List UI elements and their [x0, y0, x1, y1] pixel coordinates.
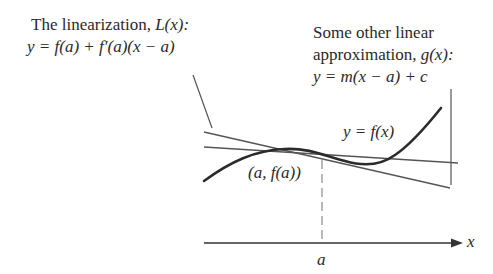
function-curve: [204, 108, 441, 181]
curve-label: y = f(x): [343, 121, 394, 143]
approximation-title-line1: Some other linear: [313, 22, 434, 44]
x-axis-label: x: [467, 231, 475, 253]
linearization-title-text: The linearization,: [31, 15, 155, 34]
linearization-title: The linearization, L(x):: [31, 14, 189, 36]
approximation-formula: y = m(x − a) + c: [313, 66, 428, 88]
point-label: (a, f(a)): [248, 162, 301, 184]
approximation-function-name: g(x):: [421, 45, 454, 64]
approximation-title-text: approximation,: [313, 45, 421, 64]
linearization-formula: y = f(a) + f′(a)(x − a): [27, 36, 175, 58]
tick-label-a: a: [317, 249, 326, 271]
approximation-title-line2: approximation, g(x):: [313, 44, 454, 66]
x-axis-arrow-icon: [451, 239, 463, 248]
linearization-function-name: L(x):: [155, 15, 189, 34]
linearization-leader-line: [193, 75, 212, 128]
